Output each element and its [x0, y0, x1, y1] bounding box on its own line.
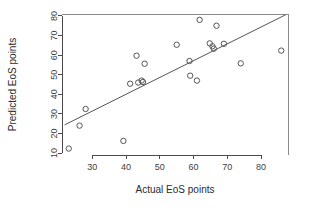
regression-line: [65, 15, 286, 125]
y-axis-tick-label: 70: [49, 31, 59, 41]
y-axis-tick-label: 50: [49, 70, 59, 80]
data-point: [83, 106, 88, 111]
y-axis-tick-label: 20: [49, 128, 59, 138]
data-point: [238, 61, 243, 66]
x-axis-tick-label: 80: [256, 162, 266, 172]
data-point: [134, 53, 139, 58]
y-axis-title: Predicted EoS points: [7, 38, 18, 131]
y-axis-tick-label: 30: [49, 109, 59, 119]
x-axis-tick-label: 30: [87, 162, 97, 172]
data-point: [214, 23, 219, 28]
data-point: [194, 78, 199, 83]
data-point: [142, 61, 147, 66]
data-point: [66, 146, 71, 151]
y-axis-tick-label: 60: [49, 50, 59, 60]
data-point: [121, 138, 126, 143]
x-axis-tick-label: 40: [121, 162, 131, 172]
data-point: [187, 73, 192, 78]
scatter-plot-screenshot: 1020304050607080304050607080Actual EoS p…: [0, 0, 311, 211]
y-axis-tick-label: 40: [49, 89, 59, 99]
data-point: [279, 48, 284, 53]
x-axis-tick-label: 70: [222, 162, 232, 172]
data-point: [77, 123, 82, 128]
data-point: [174, 42, 179, 47]
data-point: [127, 81, 132, 86]
y-axis-tick-label: 10: [49, 148, 59, 158]
x-axis-tick-label: 50: [155, 162, 165, 172]
data-point: [197, 17, 202, 22]
scatter-plot-figure: 1020304050607080304050607080Actual EoS p…: [0, 0, 311, 211]
x-axis-tick-label: 60: [189, 162, 199, 172]
x-axis-title: Actual EoS points: [136, 184, 215, 195]
y-axis-tick-label: 80: [49, 11, 59, 21]
